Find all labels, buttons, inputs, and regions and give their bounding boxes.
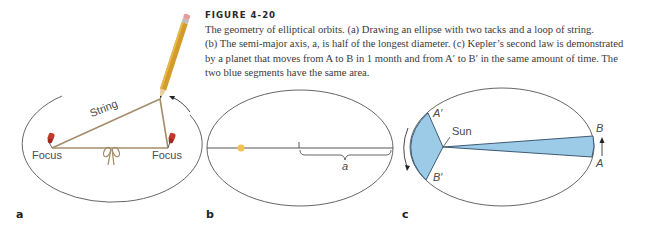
pin-right-icon <box>168 132 176 148</box>
point-b-label: B <box>596 122 603 134</box>
arrow-head-left-icon <box>405 165 410 171</box>
focus-sun-dot <box>238 145 245 152</box>
point-b-prime-label: B′ <box>433 171 442 183</box>
semi-major-axis-label: a <box>342 160 348 172</box>
sun-leader <box>443 137 450 147</box>
point-a-prime-label: A′ <box>433 107 442 119</box>
panel-a-label: a <box>16 208 23 221</box>
focus-right-label: Focus <box>152 149 182 161</box>
panel-b-drawing <box>207 90 393 206</box>
swept-area-left <box>411 113 443 180</box>
panel-c-label: c <box>402 208 409 221</box>
focus-left-label: Focus <box>32 149 62 161</box>
arrow-head-right-icon <box>600 137 605 143</box>
motion-arrow-left-icon <box>404 128 408 167</box>
string-knot-icon <box>102 146 121 165</box>
panel-c-drawing <box>404 88 605 206</box>
pin-left-icon <box>47 132 55 148</box>
semi-major-brace <box>300 150 391 160</box>
sun-label: Sun <box>452 125 472 137</box>
drawing-direction-arrow-icon <box>172 97 190 112</box>
panel-b-label: b <box>206 208 214 221</box>
swept-area-right <box>443 136 594 157</box>
point-a-label: A <box>596 157 603 169</box>
pencil-icon <box>157 13 191 100</box>
